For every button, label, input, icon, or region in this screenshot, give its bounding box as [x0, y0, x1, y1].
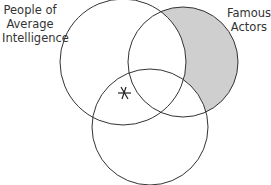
label-average-intelligence: People of Average Intelligence	[2, 3, 58, 45]
label-line: Intelligence	[2, 31, 58, 45]
label-line: Average	[2, 17, 58, 31]
asterisk-marker	[118, 87, 131, 99]
venn-diagram: People of Average Intelligence Famous Ac…	[0, 0, 271, 185]
label-line: People of	[2, 3, 58, 17]
label-line: Actors	[226, 20, 271, 34]
label-line: Famous	[226, 6, 271, 20]
label-famous-actors: Famous Actors	[226, 6, 271, 34]
